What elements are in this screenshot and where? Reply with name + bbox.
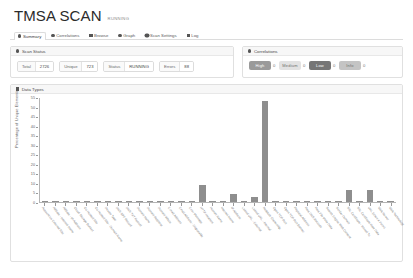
tab-scan-settings[interactable]: Scan Settings — [141, 31, 181, 39]
bar-cell — [302, 98, 312, 202]
bar-cell — [155, 98, 165, 202]
bar[interactable] — [304, 201, 310, 202]
bar[interactable] — [230, 194, 236, 202]
correlation-high[interactable]: High 0 — [249, 61, 277, 70]
bar[interactable] — [356, 201, 362, 202]
stat-value: 723 — [82, 62, 97, 71]
bar[interactable] — [84, 201, 90, 202]
y-tick-label: 40 — [31, 125, 35, 129]
bar-cell — [228, 98, 238, 202]
bar-cell — [82, 98, 92, 202]
bar[interactable] — [42, 201, 48, 202]
tab-bar: Summary Correlations Browse Graph Scan S… — [10, 27, 403, 40]
severity-badge: Info — [339, 61, 361, 70]
bar[interactable] — [335, 201, 341, 202]
dot-icon — [118, 34, 121, 37]
bar-cell — [365, 98, 375, 202]
bar[interactable] — [314, 201, 320, 202]
bar[interactable] — [387, 201, 393, 202]
bar-cell — [270, 98, 280, 202]
bar[interactable] — [105, 201, 111, 202]
bar[interactable] — [63, 201, 69, 202]
dot-icon — [248, 49, 251, 52]
severity-count: 0 — [273, 63, 277, 68]
bar[interactable] — [220, 201, 226, 202]
bar[interactable] — [115, 201, 121, 202]
y-tick-label: 10 — [31, 182, 35, 186]
severity-count: 0 — [333, 63, 337, 68]
bar[interactable] — [52, 201, 58, 202]
correlation-info[interactable]: Info 0 — [339, 61, 367, 70]
gear-icon — [145, 34, 148, 37]
bar[interactable] — [178, 201, 184, 202]
tab-summary[interactable]: Summary — [14, 32, 46, 40]
scan-dashboard: TMSA SCAN RUNNING Summary Correlations B… — [0, 0, 413, 278]
bar[interactable] — [73, 201, 79, 202]
bar-cell — [354, 98, 364, 202]
bar[interactable] — [94, 201, 100, 202]
y-tick-label: 25 — [31, 153, 35, 157]
x-axis-label: Web Technology — [388, 206, 405, 226]
tab-label: Summary — [23, 34, 41, 39]
page-title: TMSA SCAN — [14, 8, 102, 23]
dot-icon — [51, 34, 54, 37]
correlations-body: High 0 Medium 0 Low 0 Info 0 — [243, 56, 402, 75]
stat-value: RUNNING — [125, 62, 153, 71]
correlations-panel: Correlations High 0 Medium 0 Low 0 — [242, 46, 403, 78]
bar[interactable] — [377, 201, 383, 202]
y-tick-label: 5 — [33, 191, 35, 195]
tab-label: Scan Settings — [150, 33, 177, 38]
bar[interactable] — [272, 201, 278, 202]
bar[interactable] — [283, 201, 289, 202]
bar[interactable] — [126, 201, 132, 202]
tab-graph[interactable]: Graph — [114, 31, 140, 39]
bar[interactable] — [346, 190, 352, 202]
y-tick-label: 30 — [31, 144, 35, 148]
stat-status: Status RUNNING — [103, 61, 153, 72]
scan-status-badge: RUNNING — [108, 16, 130, 21]
bar[interactable] — [262, 101, 268, 202]
tab-log[interactable]: Log — [183, 31, 204, 39]
plot-area — [39, 98, 396, 203]
bar-cell — [385, 98, 395, 202]
severity-count: 0 — [303, 63, 307, 68]
severity-badge: Low — [309, 61, 331, 70]
dot-icon — [16, 49, 19, 52]
bar-cell — [103, 98, 113, 202]
bar-cell — [323, 98, 333, 202]
bar[interactable] — [251, 197, 257, 202]
bar-series — [40, 98, 396, 202]
bar[interactable] — [293, 201, 299, 202]
bar[interactable] — [157, 201, 163, 202]
bar-cell — [50, 98, 60, 202]
dot-icon — [18, 34, 21, 37]
correlation-low[interactable]: Low 0 — [309, 61, 337, 70]
tab-label: Graph — [123, 33, 135, 38]
tab-correlations[interactable]: Correlations — [47, 31, 84, 39]
bar[interactable] — [241, 201, 247, 202]
y-axis-label: Percentage of Unique Elements — [14, 90, 19, 148]
data-types-panel: Data Types Percentage of Unique Elements… — [10, 84, 403, 262]
bar[interactable] — [147, 201, 153, 202]
bar[interactable] — [209, 201, 215, 202]
bar[interactable] — [189, 201, 195, 202]
stat-key: Total — [18, 62, 36, 71]
y-tick-label: 50 — [31, 106, 35, 110]
correlation-medium[interactable]: Medium 0 — [279, 61, 307, 70]
y-tick-label: 20 — [31, 163, 35, 167]
stat-total: Total 2726 — [17, 61, 54, 72]
bar-cell — [61, 98, 71, 202]
bar[interactable] — [168, 201, 174, 202]
panel-title: Scan Status — [22, 49, 46, 54]
bar[interactable] — [136, 201, 142, 202]
bar[interactable] — [367, 190, 373, 202]
y-tick-label: 0 — [33, 201, 35, 205]
bar[interactable] — [199, 185, 205, 202]
bar[interactable] — [325, 201, 331, 202]
bar-cell — [208, 98, 218, 202]
bar-cell — [344, 98, 354, 202]
square-icon — [187, 34, 190, 37]
tab-browse[interactable]: Browse — [85, 31, 113, 39]
bar-cell — [312, 98, 322, 202]
bar-cell — [197, 98, 207, 202]
